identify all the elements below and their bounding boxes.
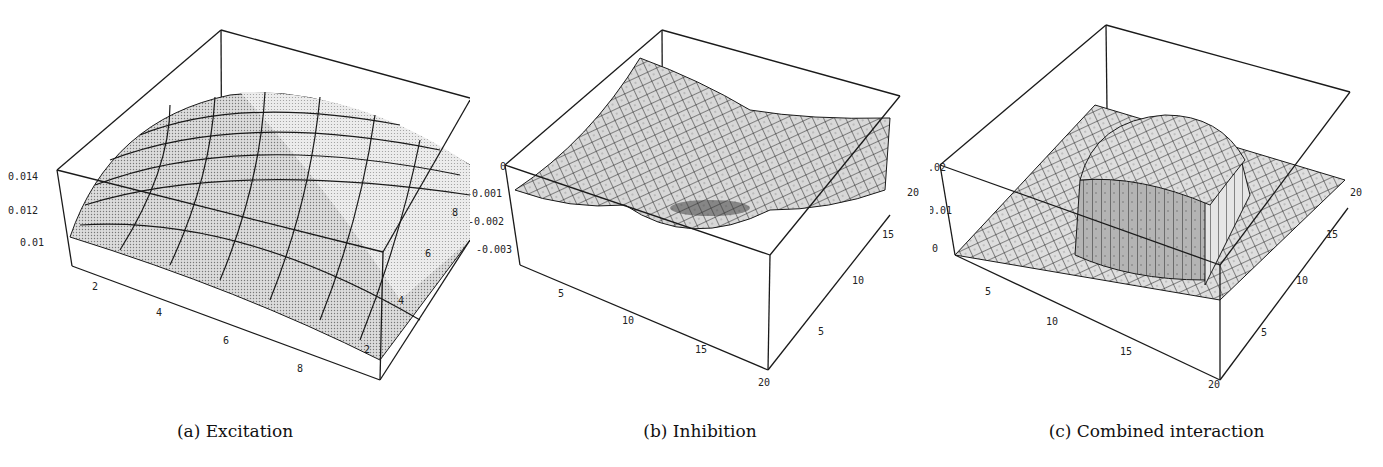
- y-tick: 10: [1296, 275, 1308, 286]
- x-tick: 4: [156, 307, 162, 318]
- combined-surface-plot: 0.02 0.01 0 5 10 15 20 5 10 15 20: [930, 0, 1383, 420]
- y-tick: 5: [1261, 327, 1267, 338]
- y-tick: 15: [882, 229, 894, 240]
- z-tick: 0.01: [930, 205, 952, 216]
- panel-combined: 0.02 0.01 0 5 10 15 20 5 10 15 20 (c) Co…: [930, 0, 1383, 467]
- excitation-surface-plot: 0.014 0.012 0.01 2 4 6 8 2 4 6 8: [0, 0, 470, 420]
- x-tick: 15: [695, 344, 707, 355]
- x-tick: 10: [622, 315, 634, 326]
- x-tick: 6: [223, 335, 229, 346]
- caption-excitation: (a) Excitation: [0, 421, 470, 441]
- z-tick: 0.012: [8, 205, 38, 216]
- x-tick: 10: [1046, 316, 1058, 327]
- x-tick: 5: [558, 288, 564, 299]
- z-tick: 0.02: [930, 162, 946, 173]
- z-tick: 0.014: [8, 171, 38, 182]
- y-tick: 2: [364, 344, 370, 355]
- caption-combined: (c) Combined interaction: [930, 421, 1383, 441]
- panel-inhibition: 0 -0.001 -0.002 -0.003 5 10 15 20 5 10 1…: [470, 0, 930, 467]
- x-tick: 20: [758, 377, 770, 388]
- z-tick: -0.003: [476, 244, 512, 255]
- z-tick: 0.01: [20, 237, 44, 248]
- z-tick: 0: [932, 243, 938, 254]
- y-tick: 4: [398, 295, 404, 306]
- caption-inhibition: (b) Inhibition: [470, 421, 930, 441]
- x-tick: 15: [1120, 346, 1132, 357]
- inhibition-surface-plot: 0 -0.001 -0.002 -0.003 5 10 15 20 5 10 1…: [470, 0, 930, 420]
- y-tick: 5: [818, 326, 824, 337]
- x-tick: 2: [92, 281, 98, 292]
- z-tick: 0: [500, 161, 506, 172]
- y-tick: 15: [1326, 229, 1338, 240]
- x-tick: 20: [1208, 379, 1220, 390]
- y-tick: 20: [1350, 187, 1362, 198]
- x-tick: 5: [985, 286, 991, 297]
- y-tick: 20: [907, 187, 919, 198]
- panel-excitation: 0.014 0.012 0.01 2 4 6 8 2 4 6 8 (a) Exc…: [0, 0, 470, 467]
- x-tick: 8: [297, 363, 303, 374]
- y-tick: 6: [425, 248, 431, 259]
- y-tick: 10: [852, 275, 864, 286]
- z-tick: -0.002: [470, 216, 504, 227]
- y-tick: 8: [452, 207, 458, 218]
- z-tick: -0.001: [470, 188, 502, 199]
